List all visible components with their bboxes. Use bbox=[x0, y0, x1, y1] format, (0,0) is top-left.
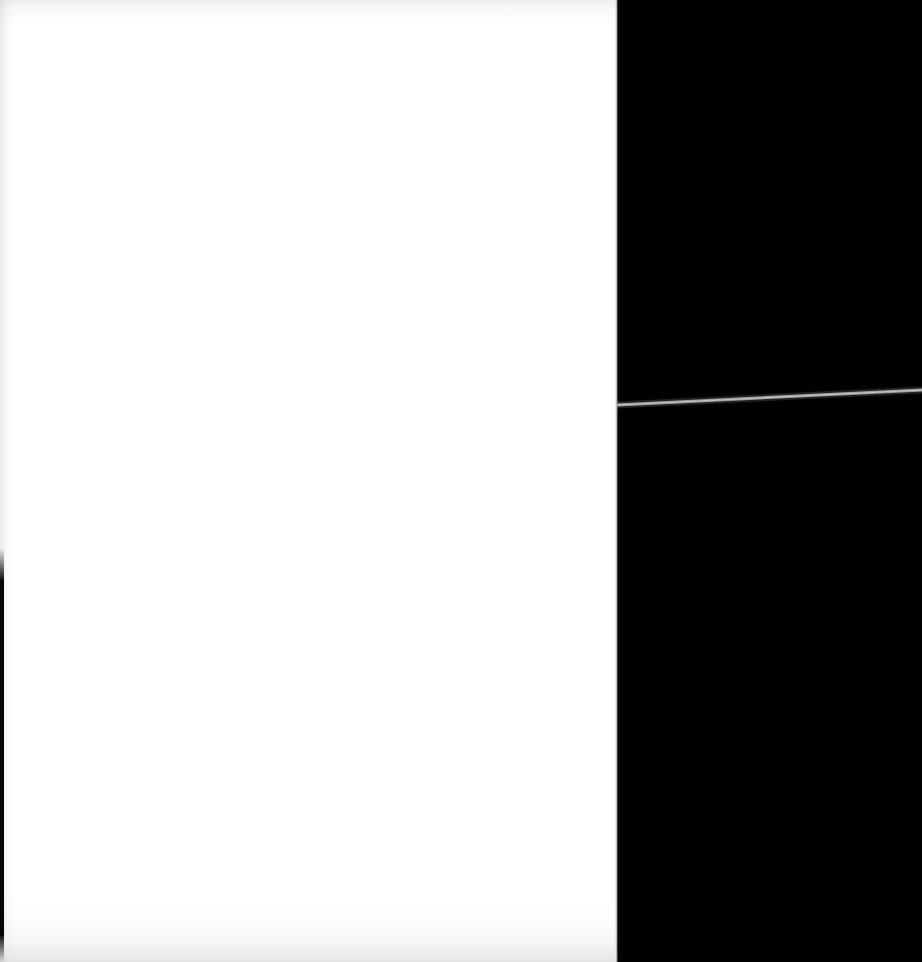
page-top-edge-shading bbox=[0, 0, 618, 26]
left-edge-black-strip-fade-top bbox=[0, 548, 4, 582]
scanner-backing-region bbox=[618, 0, 922, 962]
scanned-page-region bbox=[0, 0, 618, 962]
left-edge-black-strip bbox=[0, 580, 4, 936]
left-edge-black-strip-fade-bottom bbox=[0, 934, 4, 962]
page-bottom-edge-shading bbox=[0, 892, 618, 962]
scanned-image-canvas: Blank white page with black scanner back… bbox=[0, 0, 922, 962]
